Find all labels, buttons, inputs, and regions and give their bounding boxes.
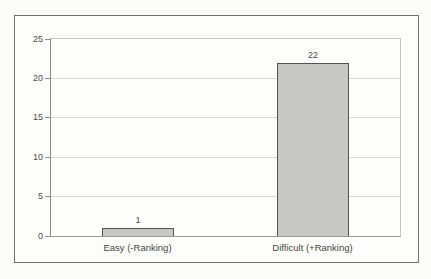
y-tick-mark-0	[45, 236, 50, 237]
y-tick-mark-10	[45, 157, 50, 158]
y-tick-label-0: 0	[15, 231, 43, 241]
x-axis-labels: Easy (-Ranking)Difficult (+Ranking)	[50, 242, 401, 256]
bar-value-label-1: 22	[273, 50, 353, 60]
y-tick-label-20: 20	[15, 73, 43, 83]
x-category-label-0: Easy (-Ranking)	[50, 242, 225, 253]
y-tick-mark-25	[45, 39, 50, 40]
y-tick-label-5: 5	[15, 191, 43, 201]
y-tick-label-25: 25	[15, 34, 43, 44]
chart-frame: 122 0510152025 Easy (-Ranking)Difficult …	[14, 15, 419, 263]
scanned-chart-page: 122 0510152025 Easy (-Ranking)Difficult …	[0, 0, 431, 279]
y-axis-labels: 0510152025	[15, 38, 43, 237]
bar-1	[277, 63, 349, 236]
y-tick-mark-15	[45, 117, 50, 118]
bar-value-label-0: 1	[98, 215, 178, 225]
y-tick-mark-20	[45, 78, 50, 79]
bar-0	[102, 228, 174, 236]
y-tick-label-15: 15	[15, 112, 43, 122]
plot-area: 122	[50, 38, 401, 237]
x-category-label-1: Difficult (+Ranking)	[225, 242, 400, 253]
y-tick-label-10: 10	[15, 152, 43, 162]
y-tick-mark-5	[45, 196, 50, 197]
